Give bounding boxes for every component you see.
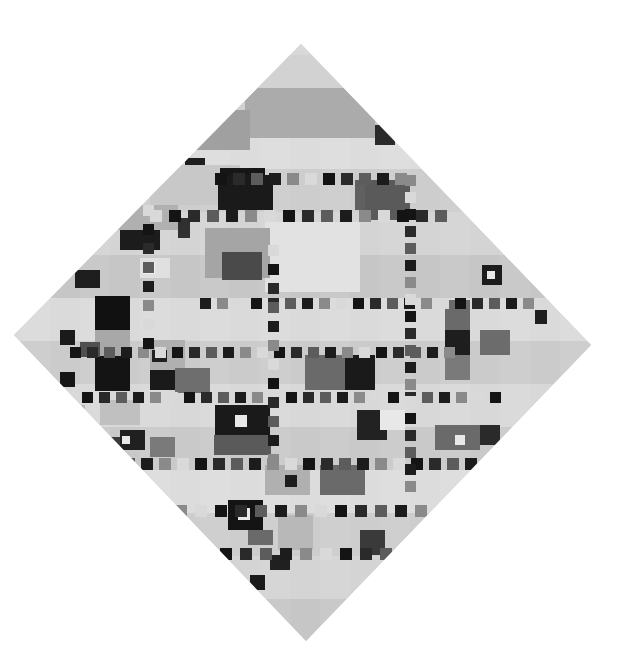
background-band — [0, 470, 627, 513]
grid-square — [285, 458, 297, 470]
color-block — [190, 110, 250, 150]
grid-square — [340, 548, 352, 560]
grid-square — [341, 173, 353, 185]
grid-square — [169, 210, 181, 222]
grid-square — [143, 300, 154, 311]
grid-square — [405, 277, 416, 288]
grid-square — [268, 454, 279, 465]
grid-square — [302, 298, 313, 309]
grid-square — [251, 298, 262, 309]
grid-square — [359, 210, 371, 222]
grid-square — [268, 283, 279, 294]
grid-square — [141, 458, 153, 470]
grid-square — [472, 298, 483, 309]
grid-square — [540, 298, 551, 309]
grid-square — [251, 173, 263, 185]
grid-square — [523, 298, 534, 309]
grid-square — [357, 458, 369, 470]
color-block — [265, 222, 360, 292]
grid-square — [456, 392, 467, 403]
grid-square — [405, 447, 416, 458]
grid-square — [217, 298, 228, 309]
grid-square — [285, 298, 296, 309]
color-block — [250, 575, 265, 590]
color-block — [487, 271, 495, 279]
color-block — [214, 435, 271, 455]
grid-square — [376, 347, 387, 358]
color-block — [100, 400, 140, 425]
grid-square — [234, 298, 245, 309]
grid-square — [223, 347, 234, 358]
grid-square — [291, 347, 302, 358]
diamond-painting — [0, 0, 627, 658]
grid-square — [380, 548, 392, 560]
grid-square — [260, 548, 272, 560]
grid-square — [300, 548, 312, 560]
grid-square — [342, 347, 353, 358]
grid-square — [339, 458, 351, 470]
grid-square — [82, 392, 93, 403]
grid-square — [405, 226, 416, 237]
grid-square — [393, 458, 405, 470]
grid-square — [233, 173, 245, 185]
grid-square — [143, 319, 154, 330]
grid-square — [143, 281, 154, 292]
grid-square — [377, 173, 389, 185]
grid-square — [213, 458, 225, 470]
color-block — [60, 405, 85, 425]
grid-square — [388, 392, 399, 403]
grid-square — [188, 210, 200, 222]
grid-square — [405, 413, 416, 424]
grid-square — [215, 173, 227, 185]
grid-square — [405, 430, 416, 441]
color-block — [345, 355, 375, 390]
grid-square — [421, 298, 432, 309]
grid-square — [268, 359, 279, 370]
grid-square — [123, 458, 135, 470]
color-block — [480, 330, 510, 355]
color-block — [150, 437, 175, 457]
grid-square — [319, 298, 330, 309]
grid-square — [359, 173, 371, 185]
grid-square — [455, 298, 466, 309]
grid-square — [405, 362, 416, 373]
grid-square — [245, 210, 257, 222]
grid-square — [320, 548, 332, 560]
grid-square — [99, 392, 110, 403]
grid-square — [70, 347, 81, 358]
color-block — [445, 355, 470, 380]
color-block — [95, 296, 130, 331]
grid-square — [320, 392, 331, 403]
grid-square — [287, 173, 299, 185]
grid-square — [405, 294, 416, 305]
grid-square — [321, 210, 333, 222]
grid-square — [405, 311, 416, 322]
grid-square — [268, 340, 279, 351]
color-block — [535, 310, 547, 324]
grid-square — [240, 347, 251, 358]
grid-square — [336, 298, 347, 309]
grid-square — [489, 298, 500, 309]
grid-square — [359, 347, 370, 358]
background-band — [0, 513, 627, 556]
grid-square — [323, 173, 335, 185]
grid-square — [405, 396, 416, 407]
background-stripe — [560, 40, 590, 650]
grid-square — [121, 347, 132, 358]
grid-square — [268, 435, 279, 446]
grid-square — [325, 347, 336, 358]
color-block — [175, 368, 210, 393]
grid-square — [177, 458, 189, 470]
color-block — [100, 437, 120, 457]
grid-square — [65, 392, 76, 403]
grid-square — [308, 347, 319, 358]
grid-square — [337, 392, 348, 403]
grid-square — [315, 505, 327, 517]
grid-square — [393, 347, 404, 358]
color-block — [285, 475, 297, 487]
grid-square — [257, 347, 268, 358]
grid-square — [435, 210, 447, 222]
grid-square — [340, 210, 352, 222]
background-band — [0, 599, 627, 642]
grid-square — [375, 458, 387, 470]
